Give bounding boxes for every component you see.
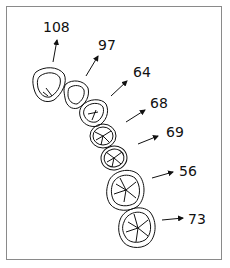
tooth-1	[33, 68, 65, 102]
arrow-2	[86, 56, 98, 76]
label-64: 64	[133, 64, 151, 80]
tooth-6	[107, 170, 144, 210]
arrow-6	[152, 172, 173, 178]
arrow-3	[111, 81, 127, 96]
arrow-4	[126, 110, 145, 122]
label-68: 68	[150, 95, 168, 111]
tooth-7	[119, 208, 155, 248]
arrow-1	[53, 40, 57, 62]
label-69: 69	[166, 124, 184, 140]
tooth-2	[64, 81, 89, 109]
arrow-7	[162, 218, 183, 220]
label-97: 97	[98, 37, 116, 53]
tooth-3	[80, 100, 108, 127]
arrow-5	[138, 136, 158, 144]
label-108: 108	[43, 19, 70, 35]
label-56: 56	[179, 163, 197, 179]
tooth-row-diagram: 108 97 64 68 69 56 73	[0, 0, 230, 268]
tooth-4	[90, 124, 116, 148]
label-73: 73	[188, 211, 206, 227]
